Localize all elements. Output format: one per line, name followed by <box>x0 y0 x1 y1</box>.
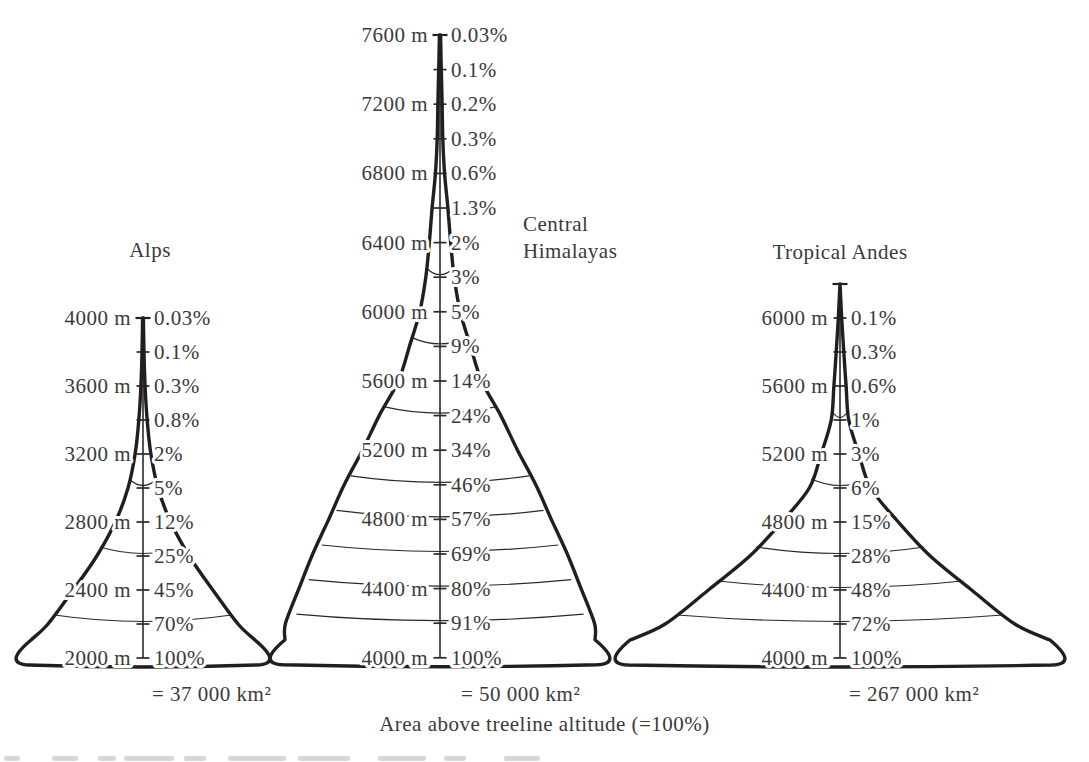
percent-label: 0.1% <box>451 58 497 82</box>
altitude-label: 6400 m <box>361 231 428 255</box>
percent-label: 91% <box>451 611 491 635</box>
alps-profile: 4000 m0.03%0.1%3600 m0.3%0.8%3200 m2%5%2… <box>16 306 270 670</box>
percent-label: 0.6% <box>851 374 897 398</box>
percent-label: 46% <box>451 473 491 497</box>
percent-label: 24% <box>451 404 491 428</box>
percent-label: 70% <box>154 612 194 636</box>
chart-title-andes: Tropical Andes <box>772 239 907 266</box>
altitude-label: 6800 m <box>361 161 428 185</box>
percent-label: 0.3% <box>154 374 200 398</box>
percent-label: 5% <box>154 476 183 500</box>
cropped-text-fragment <box>378 756 426 761</box>
percent-label: 72% <box>851 612 891 636</box>
altitude-label: 5200 m <box>761 442 828 466</box>
percent-label: 100% <box>851 646 902 670</box>
percent-label: 2% <box>451 231 480 255</box>
percent-label: 1.3% <box>451 196 497 220</box>
percent-label: 28% <box>851 544 891 568</box>
total-area-label-andes: = 267 000 km² <box>849 682 979 707</box>
percent-label: 1% <box>851 408 880 432</box>
altitude-label: 5600 m <box>361 369 428 393</box>
altitude-label: 4400 m <box>361 577 428 601</box>
percent-label: 100% <box>451 646 502 670</box>
cropped-text-fragment <box>504 756 540 761</box>
percent-label: 57% <box>451 507 491 531</box>
chart-title-alps: Alps <box>129 237 171 264</box>
percent-label: 0.3% <box>851 340 897 364</box>
percent-label: 69% <box>451 542 491 566</box>
cropped-text-fragment <box>52 756 78 761</box>
total-area-label-himalayas: = 50 000 km² <box>461 682 580 707</box>
percent-label: 3% <box>851 442 880 466</box>
total-area-label-alps: = 37 000 km² <box>152 682 271 707</box>
altitude-label: 6000 m <box>361 300 428 324</box>
percent-label: 12% <box>154 510 194 534</box>
book-figure-page: { "page": { "caption": "Area above treel… <box>0 0 1089 762</box>
altitude-label: 4000 m <box>64 306 131 330</box>
percent-label: 0.1% <box>154 340 200 364</box>
andes-profile: 6000 m0.1%0.3%5600 m0.6%1%5200 m3%6%4800… <box>615 284 1065 670</box>
altitude-label: 5600 m <box>761 374 828 398</box>
percent-label: 0.03% <box>154 306 211 330</box>
altitude-label: 2000 m <box>64 646 131 670</box>
percent-label: 25% <box>154 544 194 568</box>
percent-label: 0.3% <box>451 127 497 151</box>
altitude-label: 7200 m <box>361 92 428 116</box>
cropped-text-fragment <box>228 756 286 761</box>
altitude-label: 3200 m <box>64 442 131 466</box>
percent-label: 9% <box>451 334 480 358</box>
percent-label: 6% <box>851 476 880 500</box>
cropped-text-fragment <box>4 756 20 761</box>
percent-label: 45% <box>154 578 194 602</box>
altitude-label: 4800 m <box>761 510 828 534</box>
altitude-label: 3600 m <box>64 374 131 398</box>
cropped-text-fragment <box>184 756 206 761</box>
altitude-label: 2800 m <box>64 510 131 534</box>
altitude-label: 4000 m <box>361 646 428 670</box>
cropped-text-fragment <box>298 756 350 761</box>
altitude-label: 6000 m <box>761 306 828 330</box>
percent-label: 80% <box>451 577 491 601</box>
altitude-label: 5200 m <box>361 438 428 462</box>
percent-label: 0.8% <box>154 408 200 432</box>
percent-label: 0.03% <box>451 23 508 47</box>
himalayas-profile: 7600 m0.03%0.1%7200 m0.2%0.3%6800 m0.6%1… <box>270 23 610 670</box>
altitude-label: 4800 m <box>361 507 428 531</box>
percent-label: 34% <box>451 438 491 462</box>
percent-label: 0.2% <box>451 92 497 116</box>
cropped-text-fragment <box>444 756 466 761</box>
percent-label: 0.6% <box>451 161 497 185</box>
chart-title-himalayas: Central Himalayas <box>523 211 617 266</box>
altitude-label: 2400 m <box>64 578 131 602</box>
percent-label: 2% <box>154 442 183 466</box>
figure-caption: Area above treeline altitude (=100%) <box>0 712 1089 737</box>
percent-label: 100% <box>154 646 205 670</box>
altitude-label: 7600 m <box>361 23 428 47</box>
percent-label: 14% <box>451 369 491 393</box>
percent-label: 5% <box>451 300 480 324</box>
altitude-label: 4400 m <box>761 578 828 602</box>
percent-label: 15% <box>851 510 891 534</box>
cropped-text-fragment <box>124 756 174 761</box>
percent-label: 0.1% <box>851 306 897 330</box>
cropped-text-fragment <box>98 756 116 761</box>
percent-label: 48% <box>851 578 891 602</box>
percent-label: 3% <box>451 265 480 289</box>
altitude-label: 4000 m <box>761 646 828 670</box>
mountain-area-profiles-figure: 4000 m0.03%0.1%3600 m0.3%0.8%3200 m2%5%2… <box>0 0 1089 762</box>
